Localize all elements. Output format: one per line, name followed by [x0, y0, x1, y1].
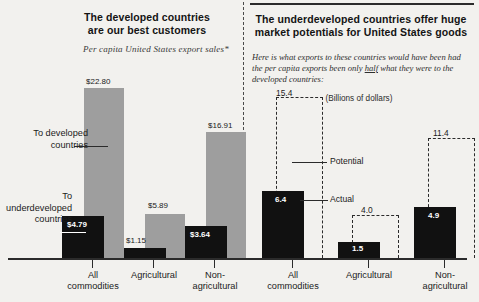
tick-agricultural — [153, 260, 154, 268]
left-panel: The developed countries are our best cus… — [0, 0, 237, 302]
tick-non-agricultural — [444, 260, 445, 268]
left-axis-baseline — [8, 258, 237, 260]
category-line2: agricultural — [407, 281, 479, 292]
tick-non-agricultural — [214, 260, 215, 268]
right-axis-baseline — [237, 258, 467, 260]
right-chart-plot: 15.4 6.4 4.0 1.5 11.4 4.9 Potential Actu… — [237, 60, 474, 260]
category-line1: Agricultural — [331, 270, 407, 281]
left-headline: The developed countries are our best cus… — [58, 11, 236, 37]
tick-agricultural — [368, 260, 369, 268]
left-subtitle: Per capita United States export sales* — [78, 44, 234, 55]
potential-label-all-commodities: 15.4 — [276, 88, 292, 98]
bar-label-gray-all-commodities: $22.80 — [86, 77, 110, 86]
category-label-all-commodities: All commodities — [255, 270, 331, 292]
category-line2: commodities — [255, 281, 331, 292]
leader-line-underdeveloped — [60, 232, 86, 233]
annotation-potential: Potential — [330, 156, 363, 166]
actual-label-non-agricultural: 4.9 — [428, 211, 439, 220]
bar-label-black-agricultural: $1.15 — [126, 236, 146, 245]
potential-label-agricultural: 4.0 — [361, 205, 373, 215]
left-chart-plot: $22.80 $4.79 $5.89 $1.15 $16.91 $3.64 To… — [0, 60, 237, 260]
bar-label-gray-agricultural: $5.89 — [148, 201, 168, 210]
tick-all-commodities — [92, 260, 93, 268]
leader-line-developed — [74, 146, 108, 147]
bar-label-gray-non-agricultural: $16.91 — [208, 121, 232, 130]
annotation-to-underdeveloped-countries: To underdeveloped countries — [0, 191, 72, 226]
annotation-to-developed-countries: To developed countries — [6, 128, 88, 151]
right-headline: The underdeveloped countries offer huge … — [250, 13, 472, 39]
category-line2: commodities — [55, 281, 131, 292]
leader-line-actual — [300, 200, 328, 201]
actual-label-all-commodities: 6.4 — [275, 195, 286, 204]
tick-all-commodities — [292, 260, 293, 268]
leader-line-potential — [292, 162, 327, 163]
category-line1: Non- — [407, 270, 479, 281]
bar-label-black-non-agricultural: $3.64 — [190, 230, 210, 239]
bar-black-agricultural — [124, 248, 166, 258]
category-line1: All — [255, 270, 331, 281]
actual-label-agricultural: 1.5 — [352, 244, 363, 253]
potential-label-non-agricultural: 11.4 — [433, 128, 449, 138]
category-label-agricultural: Agricultural — [331, 270, 407, 281]
annotation-actual: Actual — [330, 194, 354, 204]
category-label-non-agricultural: Non- agricultural — [407, 270, 479, 292]
right-panel: The underdeveloped countries offer huge … — [237, 0, 474, 302]
